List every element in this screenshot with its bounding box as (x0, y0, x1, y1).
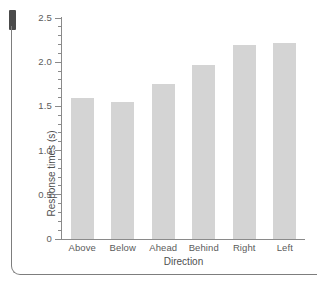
y-axis-tick-minor (58, 168, 62, 169)
y-axis-tick-minor (58, 203, 62, 204)
y-axis-tick-label: 2.5 (26, 12, 52, 23)
y-axis-tick-minor (58, 132, 62, 133)
y-axis-tick-minor (58, 212, 62, 213)
x-axis-line (61, 239, 305, 240)
y-axis-line (61, 17, 62, 240)
figure-page: 00.51.01.52.02.5 AboveBelowAheadBehindRi… (0, 0, 317, 288)
bar (273, 43, 296, 239)
bar (233, 45, 256, 239)
y-axis-tick-major (55, 62, 62, 63)
y-axis-tick-minor (58, 35, 62, 36)
y-axis-tick-minor (58, 71, 62, 72)
y-axis-tick-minor (58, 97, 62, 98)
bar (192, 65, 215, 239)
y-axis-tick-minor (58, 26, 62, 27)
y-axis-tick-minor (58, 79, 62, 80)
y-axis-tick-minor (58, 221, 62, 222)
bar (152, 84, 175, 239)
y-axis-tick-minor (58, 159, 62, 160)
y-axis-tick-minor (58, 185, 62, 186)
x-axis-tick-label: Left (255, 242, 315, 253)
y-axis-tick-minor (58, 141, 62, 142)
y-axis-tick-minor (58, 230, 62, 231)
y-axis-tick-minor (58, 115, 62, 116)
bar-chart: 00.51.01.52.02.5 AboveBelowAheadBehindRi… (0, 0, 317, 288)
y-axis-tick-minor (58, 177, 62, 178)
x-axis-title: Direction (62, 256, 305, 267)
bar (71, 98, 94, 239)
y-axis-tick-minor (58, 44, 62, 45)
y-axis-tick-major (55, 18, 62, 19)
bar (111, 102, 134, 239)
y-axis-title: Response times (s) (46, 94, 57, 254)
y-axis-tick-minor (58, 88, 62, 89)
y-axis-tick-label-wrap: 2.5 (24, 18, 52, 19)
y-axis-tick-minor (58, 53, 62, 54)
y-axis-tick-minor (58, 124, 62, 125)
y-axis-title-holder: Response times (s) (29, 48, 43, 208)
